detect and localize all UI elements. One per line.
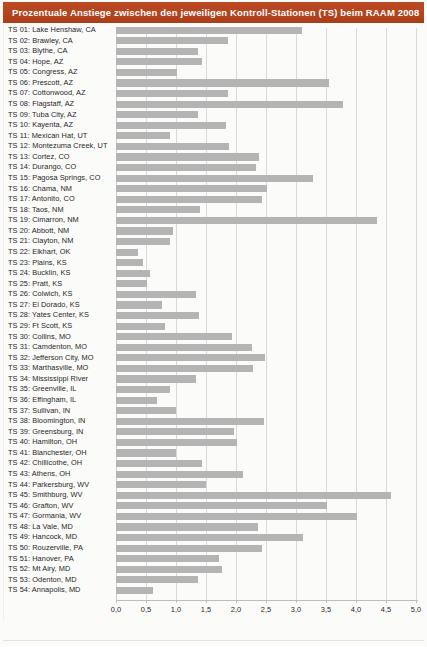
chart-row: TS 08: Flagstaff, AZ	[3, 99, 424, 110]
category-label: TS 18: Taos, NM	[8, 205, 64, 216]
chart-row: TS 10: Kayenta, AZ	[3, 120, 424, 131]
chart-row: TS 22: Elkhart, OK	[3, 247, 424, 258]
category-label: TS 53: Odenton, MD	[8, 575, 77, 586]
bar	[116, 407, 176, 414]
x-axis-tick	[326, 600, 327, 603]
category-label: TS 21: Clayton, NM	[8, 236, 73, 247]
x-axis-tick	[116, 600, 117, 603]
category-label: TS 24: Bucklin, KS	[8, 268, 71, 279]
category-label: TS 02: Brawley, CA	[8, 36, 73, 47]
category-label: TS 13: Cortez, CO	[8, 152, 70, 163]
category-label: TS 51: Hanover, PA	[8, 554, 74, 565]
category-label: TS 16: Chama, NM	[8, 184, 72, 195]
category-label: TS 23: Plains, KS	[8, 258, 67, 269]
chart-row: TS 07: Cottonwood, AZ	[3, 88, 424, 99]
bar	[116, 344, 252, 351]
category-label: TS 17: Antonito, CO	[8, 194, 75, 205]
category-label: TS 43: Athens, OH	[8, 469, 70, 480]
category-label: TS 26: Colwich, KS	[8, 289, 73, 300]
category-label: TS 25: Pratt, KS	[8, 279, 62, 290]
bar	[116, 175, 313, 182]
bar	[116, 481, 206, 488]
category-label: TS 20: Abbott, NM	[8, 226, 69, 237]
x-axis-tick-label: 3,5	[321, 605, 331, 614]
bar	[116, 301, 162, 308]
chart-row: TS 04: Hope, AZ	[3, 57, 424, 68]
chart-row: TS 45: Smithburg, WV	[3, 490, 424, 501]
x-axis-tick	[206, 600, 207, 603]
bar	[116, 386, 170, 393]
chart-row: TS 15: Pagosa Springs, CO	[3, 173, 424, 184]
chart-title-bar: Prozentuale Anstiege zwischen den jeweil…	[3, 2, 424, 23]
category-label: TS 08: Flagstaff, AZ	[8, 99, 74, 110]
bar	[116, 291, 196, 298]
category-label: TS 40: Hamilton, OH	[8, 437, 77, 448]
bar	[116, 471, 243, 478]
bar	[116, 132, 170, 139]
bar	[116, 418, 264, 425]
chart-row: TS 14: Durango, CO	[3, 162, 424, 173]
bar	[116, 249, 138, 256]
bar	[116, 502, 327, 509]
chart-row: TS 35: Greenville, IL	[3, 384, 424, 395]
chart-row: TS 36: Effingham, IL	[3, 395, 424, 406]
x-axis-tick-label: 5,0	[411, 605, 421, 614]
bar	[116, 439, 237, 446]
bar	[116, 545, 262, 552]
category-label: TS 37: Sullivan, IN	[8, 406, 70, 417]
chart-row: TS 25: Pratt, KS	[3, 279, 424, 290]
bar	[116, 69, 177, 76]
chart-row: TS 16: Chama, NM	[3, 184, 424, 195]
bar	[116, 101, 343, 108]
category-label: TS 46: Grafton, WV	[8, 501, 73, 512]
category-label: TS 52: Mt Airy, MD	[8, 564, 70, 575]
category-label: TS 04: Hope, AZ	[8, 57, 63, 68]
bar	[116, 122, 226, 129]
x-axis-tick-label: 4,5	[381, 605, 391, 614]
bar	[116, 164, 256, 171]
category-label: TS 29: Ft Scott, KS	[8, 321, 72, 332]
chart-row: TS 37: Sullivan, IN	[3, 406, 424, 417]
category-label: TS 50: Rouzerville, PA	[8, 543, 83, 554]
x-axis-tick	[236, 600, 237, 603]
bar	[116, 153, 259, 160]
category-label: TS 48: La Vale, MD	[8, 522, 73, 533]
chart-row: TS 26: Colwich, KS	[3, 289, 424, 300]
chart-area: TS 01: Lake Henshaw, CATS 02: Brawley, C…	[3, 25, 424, 621]
bar	[116, 323, 165, 330]
bar	[116, 576, 198, 583]
category-label: TS 05: Congress, AZ	[8, 67, 78, 78]
chart-row: TS 53: Odenton, MD	[3, 575, 424, 586]
chart-row: TS 44: Parkersburg, WV	[3, 480, 424, 491]
chart-row: TS 29: Ft Scott, KS	[3, 321, 424, 332]
x-axis-tick-label: 3,0	[291, 605, 301, 614]
category-label: TS 32: Jefferson City, MO	[8, 353, 94, 364]
bar	[116, 428, 234, 435]
category-label: TS 27: El Dorado, KS	[8, 300, 80, 311]
x-axis-tick	[176, 600, 177, 603]
bar	[116, 48, 198, 55]
bar	[116, 90, 228, 97]
chart-row: TS 09: Tuba City, AZ	[3, 110, 424, 121]
chart-row: TS 32: Jefferson City, MO	[3, 353, 424, 364]
x-axis-tick-label: 0,0	[111, 605, 121, 614]
chart-row: TS 30: Collins, MO	[3, 332, 424, 343]
bar	[116, 312, 199, 319]
x-axis-tick-label: 1,0	[171, 605, 181, 614]
chart-row: TS 05: Congress, AZ	[3, 67, 424, 78]
bar	[116, 58, 202, 65]
category-label: TS 14: Durango, CO	[8, 162, 76, 173]
chart-row: TS 43: Athens, OH	[3, 469, 424, 480]
chart-row: TS 34: Mississippi River	[3, 374, 424, 385]
x-axis-tick	[356, 600, 357, 603]
chart-row: TS 06: Prescott, AZ	[3, 78, 424, 89]
chart-row: TS 11: Mexican Hat, UT	[3, 131, 424, 142]
category-label: TS 39: Greensburg, IN	[8, 427, 83, 438]
chart-row: TS 23: Plains, KS	[3, 258, 424, 269]
category-label: TS 06: Prescott, AZ	[8, 78, 73, 89]
x-axis-tick	[146, 600, 147, 603]
category-label: TS 38: Bloomington, IN	[8, 416, 86, 427]
bar	[116, 354, 265, 361]
bar	[116, 238, 170, 245]
chart-row: TS 48: La Vale, MD	[3, 522, 424, 533]
